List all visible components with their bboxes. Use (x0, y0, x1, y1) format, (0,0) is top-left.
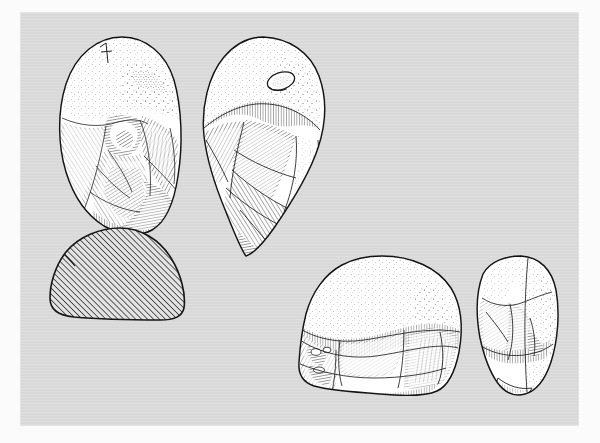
figure-cross-section-profile (50, 228, 184, 320)
figure-core-lower-centre (299, 256, 461, 397)
figure-core-upper-left (58, 36, 181, 236)
artifact-drawings (0, 0, 600, 443)
figure-core-lower-right (477, 256, 558, 396)
illustration-plate: Lithic artefact illustration plate flake… (0, 0, 600, 443)
figure-core-upper-right (203, 36, 325, 256)
